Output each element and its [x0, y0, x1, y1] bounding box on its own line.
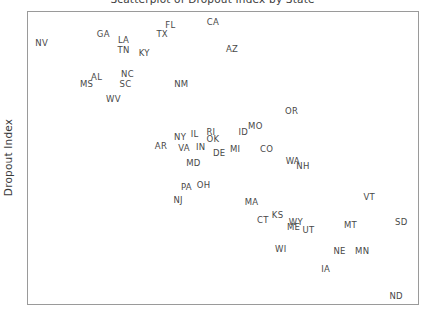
data-point-nv: NV	[35, 39, 48, 48]
data-point-ne: NE	[333, 247, 345, 256]
data-point-ms: MS	[80, 79, 93, 88]
data-point-pa: PA	[181, 183, 192, 192]
data-point-co: CO	[260, 145, 273, 154]
data-point-ks: KS	[272, 210, 283, 219]
chart-title-cropped: Scatterplot of Dropout Index by State	[0, 0, 425, 7]
data-point-mi: MI	[230, 145, 240, 154]
data-point-tn: TN	[118, 45, 130, 54]
data-point-nm: NM	[174, 80, 188, 89]
data-point-ut: UT	[302, 225, 314, 234]
data-point-vt: VT	[363, 193, 375, 202]
data-point-ia: IA	[321, 265, 330, 274]
data-point-nd: ND	[389, 292, 402, 301]
data-point-de: DE	[213, 149, 225, 158]
data-point-la: LA	[118, 35, 129, 44]
data-point-ky: KY	[139, 48, 150, 57]
data-point-wi: WI	[275, 245, 286, 254]
data-point-me: ME	[287, 223, 300, 232]
data-point-wv: WV	[106, 95, 121, 104]
data-point-ar: AR	[155, 142, 167, 151]
data-point-va: VA	[178, 144, 190, 153]
y-axis-label: Dropout Index	[0, 0, 16, 315]
data-point-ct: CT	[257, 215, 269, 224]
data-point-mo: MO	[248, 122, 263, 131]
data-point-nh: NH	[296, 162, 309, 171]
data-point-az: AZ	[226, 45, 238, 54]
data-point-tx: TX	[156, 30, 168, 39]
data-point-ny: NY	[174, 133, 186, 142]
data-point-ga: GA	[97, 30, 110, 39]
data-point-in: IN	[196, 143, 205, 152]
data-point-mn: MN	[355, 247, 369, 256]
data-point-ca: CA	[207, 18, 219, 27]
data-point-mt: MT	[344, 220, 357, 229]
data-point-ok: OK	[206, 135, 219, 144]
data-point-ma: MA	[245, 198, 259, 207]
data-point-il: IL	[191, 130, 199, 139]
data-point-oh: OH	[197, 181, 211, 190]
data-point-id: ID	[238, 128, 248, 137]
chart-title-text: Scatterplot of Dropout Index by State	[110, 0, 314, 5]
data-point-nj: NJ	[173, 196, 182, 205]
plot-area-frame: NVGALATNKYFLTXCAAZALNCMSSCNMWVORMOIDILRI…	[27, 11, 419, 305]
scatter-plot-figure: Scatterplot of Dropout Index by State Dr…	[0, 0, 425, 315]
data-point-md: MD	[186, 159, 200, 168]
data-point-sc: SC	[120, 79, 132, 88]
data-points-layer: NVGALATNKYFLTXCAAZALNCMSSCNMWVORMOIDILRI…	[28, 12, 418, 304]
data-point-sd: SD	[395, 217, 407, 226]
data-point-or: OR	[285, 107, 298, 116]
